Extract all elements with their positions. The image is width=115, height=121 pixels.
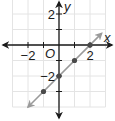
data-point (41, 89, 46, 94)
data-point (72, 58, 77, 63)
y-axis-label: y (63, 0, 72, 14)
coordinate-plane: x y O −222−2 (0, 0, 115, 121)
y-tick-label: −2 (40, 69, 55, 84)
x-tick-label: 2 (86, 48, 93, 63)
data-point (56, 73, 61, 78)
origin-label: O (45, 46, 55, 61)
x-tick-label: −2 (21, 48, 36, 63)
x-axis-label: x (103, 30, 111, 45)
data-point (87, 42, 92, 47)
y-tick-label: 2 (48, 7, 55, 22)
